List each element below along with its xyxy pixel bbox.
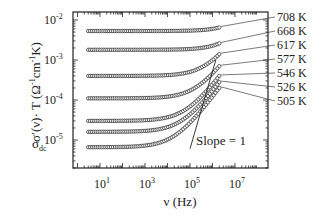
data-series xyxy=(87,26,221,149)
y-tick-label: 10-4 xyxy=(44,92,63,107)
series-label: 577 K xyxy=(277,52,307,66)
x-tick-label: 101 xyxy=(94,176,110,191)
series-label: 708 K xyxy=(277,10,307,24)
svg-text:σ′(ν)· T (Ω-1cm-1K): σ′(ν)· T (Ω-1cm-1K) xyxy=(28,42,43,142)
x-tick-label: 107 xyxy=(229,176,245,191)
x-axis-label: ν (Hz) xyxy=(164,194,197,209)
series-label: 526 K xyxy=(277,80,307,94)
x-tick-label: 105 xyxy=(184,176,200,191)
y-tick-label: 10-2 xyxy=(44,12,63,27)
series-label: 505 K xyxy=(277,94,307,108)
series-526k xyxy=(87,80,221,133)
series-668k xyxy=(87,42,221,52)
conductivity-chart: 10110310510710-210-310-410-5 708 K668 K6… xyxy=(0,0,328,220)
y-tick-label: 10-5 xyxy=(44,132,63,147)
series-label: 668 K xyxy=(277,24,307,38)
series-label: 617 K xyxy=(277,38,307,52)
series-708k xyxy=(87,26,221,33)
y-tick-label: 10-3 xyxy=(44,52,63,67)
series-labels: 708 K668 K617 K577 K546 K526 K505 K xyxy=(221,10,307,108)
series-617k xyxy=(87,52,221,77)
series-label: 546 K xyxy=(277,66,307,80)
annotations: σdc Slope = 1 xyxy=(32,133,246,153)
x-tick-label: 103 xyxy=(139,176,155,191)
slope-annotation: Slope = 1 xyxy=(196,133,246,148)
y-axis-label: σ′(ν)· T (Ω-1cm-1K) xyxy=(28,42,43,142)
